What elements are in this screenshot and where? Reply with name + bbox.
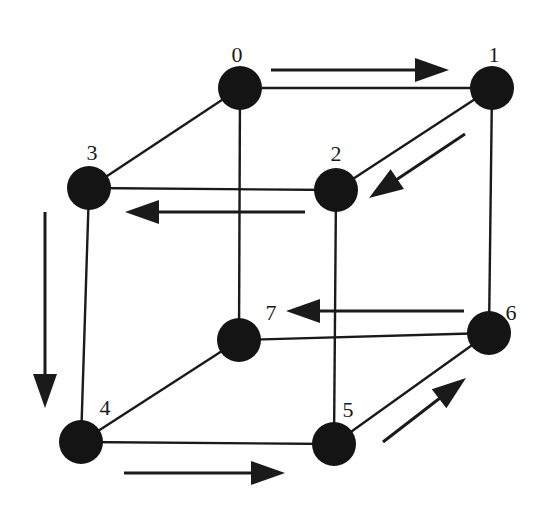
arrow-5-to-6 [383,378,466,442]
arrow-3-to-4 [33,212,57,408]
node-label-2: 2 [331,141,342,166]
node-label-4: 4 [100,395,111,420]
node-3 [67,166,111,210]
arrowhead-icon [286,299,320,323]
node-label-0: 0 [232,42,243,67]
node-1 [470,66,514,110]
cube-edges [81,88,492,444]
node-5 [312,422,356,466]
node-label-7: 7 [266,300,277,325]
node-6 [467,311,511,355]
arrowhead-icon [415,58,449,82]
edge-0-3 [89,88,240,188]
node-4 [59,420,103,464]
edge-4-5 [81,442,334,444]
node-labels: 01234567 [87,42,517,422]
edge-4-7 [81,340,239,442]
arrow-2-to-3 [125,200,305,224]
edge-2-3 [89,188,336,190]
edge-0-7 [239,88,240,340]
arrow-1-to-2 [369,134,465,198]
arrowhead-icon [432,378,466,408]
arrowhead-icon [33,374,57,408]
arrowhead-icon [251,461,285,485]
arrow-6-to-7 [286,299,464,323]
edge-1-6 [489,88,492,333]
node-label-3: 3 [87,140,98,165]
node-label-1: 1 [489,42,500,67]
node-2 [314,168,358,212]
node-7 [217,318,261,362]
edge-5-6 [334,333,489,444]
traversal-arrows [33,58,466,485]
arrowhead-icon [369,169,404,198]
node-label-5: 5 [343,397,354,422]
hypercube-diagram: 01234567 [0,0,548,513]
edge-6-7 [239,333,489,340]
edge-1-2 [336,88,492,190]
node-label-6: 6 [506,300,517,325]
arrowhead-icon [125,200,159,224]
node-0 [218,66,262,110]
edge-3-4 [81,188,89,442]
arrow-4-to-5 [124,461,285,485]
arrow-0-to-1 [271,58,449,82]
edge-2-5 [334,190,336,444]
